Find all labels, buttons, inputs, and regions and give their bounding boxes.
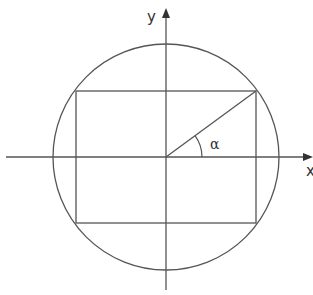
angle-alpha-label: α xyxy=(210,136,220,152)
coordinate-diagram: y x α xyxy=(0,0,313,295)
angle-arc xyxy=(195,136,202,157)
y-axis-label: y xyxy=(147,8,156,26)
x-axis-label: x xyxy=(306,162,313,180)
